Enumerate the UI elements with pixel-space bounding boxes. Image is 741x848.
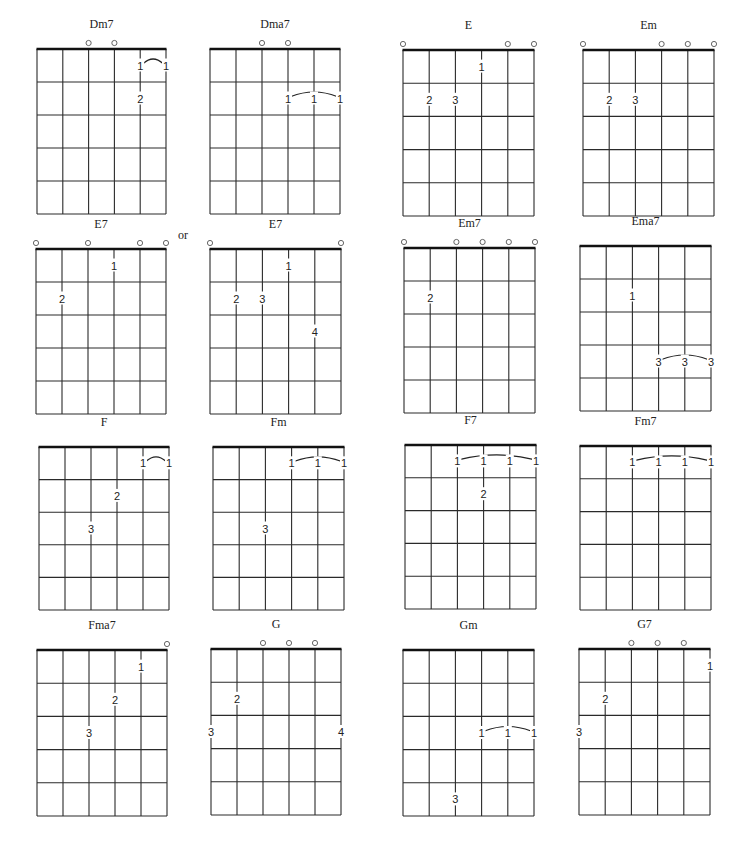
finger-number: 1 [708,456,714,468]
finger-number: 1 [481,455,487,467]
finger-number: 3 [88,523,94,535]
finger-number: 1 [311,93,317,105]
finger-number: 1 [507,455,513,467]
finger-number: 4 [338,726,344,738]
chord-diagram-fm: Fm1113 [203,407,354,620]
finger-number: 1 [682,456,688,468]
open-string-marker [400,41,405,46]
finger-number: 1 [531,727,537,739]
finger-number: 3 [656,356,662,368]
chord-diagram-ema7: Ema73331 [570,206,721,421]
open-string-marker [532,239,537,244]
chord-diagram-f: F1132 [29,407,179,620]
finger-number: 1 [479,61,485,73]
open-string-marker [285,40,290,45]
barre-arc [460,455,533,460]
finger-number: 1 [111,260,117,272]
finger-number: 1 [337,93,343,105]
finger-number: 1 [656,456,662,468]
chord-diagram-e7: E721 [26,209,176,424]
finger-number: 4 [312,326,318,338]
chord-diagram-g7: G7321 [569,609,720,825]
chord-diagram-e7: E72314 [200,209,351,424]
fretboard-grid: 231 [393,10,544,226]
finger-number: 1 [454,455,460,467]
finger-number: 2 [606,94,612,106]
fretboard-grid: 1113 [203,407,354,620]
fretboard-grid: 1111 [570,406,721,620]
chord-diagram-dm7: Dm7112 [27,9,176,224]
chord-diagram-em: Em23 [573,10,724,226]
finger-number: 1 [286,260,292,272]
finger-number: 1 [166,457,172,469]
chord-diagram-fm7: Fm71111 [570,406,721,620]
finger-number: 3 [632,94,638,106]
or-label: or [178,228,188,243]
finger-number: 3 [452,793,458,805]
finger-number: 1 [140,457,146,469]
open-string-marker [312,640,317,645]
finger-number: 2 [427,292,433,304]
open-string-marker [655,640,660,645]
barre-arc [146,457,166,462]
finger-number: 1 [629,290,635,302]
open-string-marker [33,240,38,245]
open-string-marker [480,239,485,244]
open-string-marker [505,41,510,46]
fretboard-grid: 321 [27,610,177,826]
finger-number: 2 [233,293,239,305]
finger-number: 2 [112,694,118,706]
open-string-marker [338,240,343,245]
finger-number: 3 [576,726,582,738]
finger-number: 1 [137,60,143,72]
open-string-marker [164,641,169,646]
open-string-marker [260,640,265,645]
open-string-marker [685,41,690,46]
open-string-marker [659,41,664,46]
finger-number: 2 [426,94,432,106]
chord-diagram-gm: Gm1113 [393,610,544,826]
open-string-marker [580,41,585,46]
fretboard-grid: 324 [201,609,351,825]
finger-number: 1 [629,456,635,468]
open-string-marker [629,640,634,645]
finger-number: 3 [259,293,265,305]
finger-number: 1 [285,93,291,105]
open-string-marker [137,240,142,245]
chord-diagram-e: E231 [393,10,544,226]
finger-number: 1 [341,457,347,469]
fretboard-grid: 2314 [200,209,351,424]
open-string-marker [506,239,511,244]
open-string-marker [401,239,406,244]
finger-number: 3 [86,727,92,739]
open-string-marker [531,41,536,46]
finger-number: 1 [163,60,169,72]
finger-number: 1 [315,457,321,469]
fretboard-grid: 321 [569,609,720,825]
fretboard-grid: 23 [573,10,724,226]
open-string-marker [112,40,117,45]
open-string-marker [163,240,168,245]
finger-number: 1 [533,455,539,467]
fretboard-grid: 1113 [393,610,544,826]
finger-number: 2 [481,488,487,500]
fretboard-grid: 112 [27,9,176,224]
finger-number: 2 [234,693,240,705]
fretboard-grid: 21 [26,209,176,424]
chord-diagram-g: G324 [201,609,351,825]
open-string-marker [711,41,716,46]
open-string-marker [681,640,686,645]
open-string-marker [454,239,459,244]
fretboard-grid: 3331 [570,206,721,421]
chord-diagram-dma7: Dma7111 [200,9,350,224]
open-string-marker [86,40,91,45]
open-string-marker [207,240,212,245]
chord-diagram-f7: F711112 [395,405,546,619]
finger-number: 3 [208,726,214,738]
finger-number: 3 [452,94,458,106]
finger-number: 1 [505,727,511,739]
finger-number: 2 [59,293,65,305]
fretboard-grid: 2 [394,208,545,423]
finger-number: 2 [137,93,143,105]
chord-diagram-em7: Em72 [394,208,545,423]
